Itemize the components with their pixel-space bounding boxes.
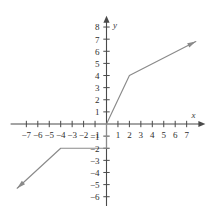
y-tick-label: 4 bbox=[95, 71, 100, 81]
y-tick-label: −4 bbox=[90, 168, 100, 178]
x-tick-label: −5 bbox=[44, 130, 54, 140]
x-tick-label: −3 bbox=[67, 130, 77, 140]
y-tick-label: 5 bbox=[95, 59, 100, 69]
y-tick-label: 2 bbox=[95, 95, 100, 105]
y-axis-arrowhead bbox=[103, 16, 109, 23]
y-tick-label: 8 bbox=[95, 22, 100, 32]
y-tick-label: 7 bbox=[95, 35, 100, 45]
y-tick-label: 3 bbox=[95, 83, 100, 93]
x-tick-label: 1 bbox=[116, 130, 121, 140]
x-tick-label: 4 bbox=[150, 130, 155, 140]
x-axis-arrowhead bbox=[198, 121, 205, 127]
y-tick-label: 6 bbox=[95, 47, 100, 57]
graph-canvas: −7−6−5−4−3−2−11234567−6−5−4−3−2−11234567… bbox=[0, 0, 212, 210]
x-tick-label: −4 bbox=[56, 130, 66, 140]
x-tick-label: 3 bbox=[139, 130, 144, 140]
x-tick-label: −6 bbox=[33, 130, 43, 140]
axes-group bbox=[11, 16, 206, 206]
y-tick-label: −6 bbox=[90, 192, 100, 202]
x-tick-label: 5 bbox=[162, 130, 167, 140]
y-tick-label: −3 bbox=[90, 156, 100, 166]
coordinate-plane-figure: −7−6−5−4−3−2−11234567−6−5−4−3−2−11234567… bbox=[0, 0, 212, 210]
x-tick-label: −7 bbox=[22, 130, 32, 140]
y-tick-label: −2 bbox=[90, 144, 100, 154]
x-tick-label: 6 bbox=[173, 130, 178, 140]
y-tick-label: −5 bbox=[90, 180, 100, 190]
x-tick-label: 7 bbox=[184, 130, 189, 140]
y-tick-label: 1 bbox=[95, 107, 100, 117]
curve-end-arrowhead bbox=[187, 42, 196, 48]
x-tick-label: 2 bbox=[127, 130, 132, 140]
x-tick-label: −2 bbox=[79, 130, 89, 140]
x-axis-label: x bbox=[191, 110, 196, 120]
y-tick-label: −1 bbox=[90, 132, 100, 142]
y-axis-label: y bbox=[112, 20, 117, 30]
